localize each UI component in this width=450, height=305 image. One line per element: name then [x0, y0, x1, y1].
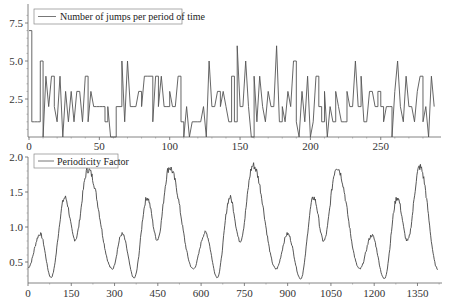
bottom-chart: 0.51.01.52.0 015030045060075090010501200… [9, 151, 442, 299]
y-tick-label: 7.5 [9, 17, 23, 29]
bottom-y-ticks: 0.51.01.52.0 [9, 151, 28, 276]
y-tick-label: 1.0 [9, 221, 23, 233]
top-chart: 2.55.07.5 050100150200250 Number of jump… [9, 4, 441, 152]
x-tick-label: 1200 [363, 287, 386, 299]
x-tick-label: 300 [106, 287, 123, 299]
bottom-x-ticks: 0150300450600750900105012001350 [25, 283, 439, 299]
x-tick-label: 150 [232, 140, 249, 152]
top-series-line [29, 31, 434, 137]
x-tick-label: 0 [26, 140, 32, 152]
x-tick-label: 900 [279, 287, 296, 299]
top-legend-label: Number of jumps per period of time [60, 11, 206, 22]
y-tick-label: 1.5 [9, 186, 23, 198]
x-tick-label: 150 [63, 287, 80, 299]
x-tick-label: 200 [302, 140, 319, 152]
y-tick-label: 2.5 [9, 93, 23, 105]
x-tick-label: 1050 [320, 287, 343, 299]
x-tick-label: 250 [373, 140, 390, 152]
x-tick-label: 750 [236, 287, 253, 299]
bottom-legend-label: Periodicity Factor [57, 156, 130, 167]
top-x-ticks: 050100150200250 [26, 137, 423, 152]
bottom-legend: Periodicity Factor [34, 154, 130, 168]
y-tick-label: 2.0 [9, 151, 23, 163]
x-tick-label: 100 [161, 140, 178, 152]
x-tick-label: 600 [193, 287, 210, 299]
y-tick-label: 5.0 [9, 55, 23, 67]
x-tick-label: 0 [25, 287, 31, 299]
top-legend: Number of jumps per period of time [34, 9, 206, 24]
bottom-series-line [28, 163, 438, 279]
top-y-ticks: 2.55.07.5 [9, 15, 28, 129]
x-tick-label: 1350 [406, 287, 429, 299]
figure: 2.55.07.5 050100150200250 Number of jump… [0, 0, 450, 305]
x-tick-label: 450 [150, 287, 167, 299]
x-tick-label: 50 [94, 140, 106, 152]
y-tick-label: 0.5 [9, 256, 23, 268]
